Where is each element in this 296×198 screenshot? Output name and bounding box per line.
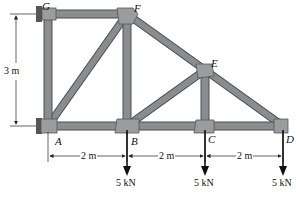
span-bc-label: 2 m [158, 151, 175, 161]
node-label-a: A [55, 136, 62, 147]
load-arrows [123, 130, 287, 176]
node-label-f: F [134, 3, 141, 14]
node-label-c: C [208, 134, 215, 145]
truss-members [44, 14, 287, 126]
load-label-d: 5 kN [272, 178, 292, 188]
height-dimension-label: 3 m [3, 66, 20, 76]
node-label-d: D [286, 134, 294, 145]
span-ab-label: 2 m [80, 151, 97, 161]
gusset-plates [41, 8, 288, 133]
load-label-b: 5 kN [116, 178, 136, 188]
load-label-c: 5 kN [194, 178, 214, 188]
node-label-b: B [131, 136, 138, 147]
truss-diagram: G F E A B C D 3 m 2 m 2 m 2 m 5 kN 5 kN … [0, 0, 296, 198]
span-cd-label: 2 m [236, 151, 253, 161]
node-label-e: E [211, 58, 218, 69]
node-label-g: G [42, 1, 50, 12]
truss-drawing [0, 0, 296, 198]
